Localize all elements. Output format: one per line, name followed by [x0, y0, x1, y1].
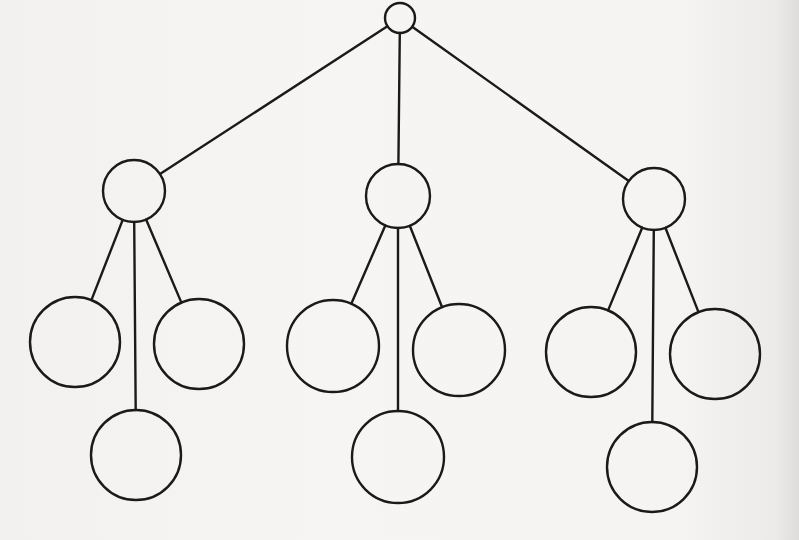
- tree-node-n3b: [607, 422, 697, 512]
- tree-nodes: [30, 3, 760, 512]
- tree-edge-n3-n3b: [652, 230, 654, 422]
- tree-edge-n2-n2a: [351, 225, 385, 303]
- tree-node-n1c: [154, 299, 244, 389]
- tree-edge-n1-n1b: [134, 222, 136, 410]
- tree-diagram: [0, 0, 799, 540]
- tree-node-n1a: [30, 297, 120, 387]
- tree-edge-n1-n1a: [91, 220, 122, 300]
- tree-edge-n2-n2c: [410, 226, 442, 307]
- tree-edge-root-n3: [412, 27, 629, 181]
- tree-node-n3: [623, 168, 685, 230]
- tree-node-n3a: [546, 307, 636, 397]
- tree-node-n1: [103, 160, 165, 222]
- tree-edge-n1-n1c: [146, 220, 181, 303]
- tree-edge-n3-n3a: [608, 228, 642, 311]
- tree-edge-root-n2: [398, 33, 399, 164]
- tree-edges: [91, 26, 698, 422]
- diagram-page: [0, 0, 799, 540]
- tree-node-n2: [366, 164, 430, 228]
- tree-node-n2c: [413, 304, 505, 396]
- tree-node-n2a: [287, 300, 379, 392]
- tree-edge-n3-n3c: [665, 228, 698, 312]
- tree-node-root: [385, 3, 415, 33]
- tree-node-n2b: [352, 411, 444, 503]
- tree-node-n1b: [91, 410, 181, 500]
- tree-edge-root-n1: [160, 26, 387, 174]
- tree-node-n3c: [670, 309, 760, 399]
